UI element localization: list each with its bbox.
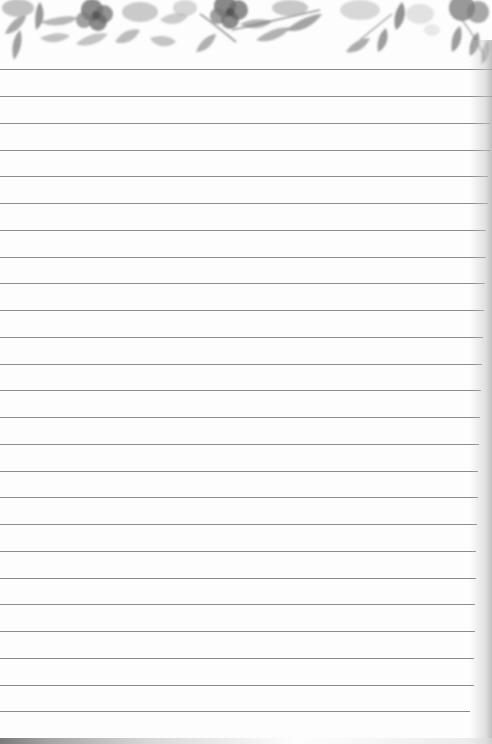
ruled-line [0,203,488,204]
notepad-sheet [0,0,492,744]
ruled-line [0,69,492,70]
ruled-line [0,631,475,632]
ruled-line [0,176,488,177]
ruled-line [0,551,476,552]
ruled-line [0,230,486,231]
ruled-line [0,337,483,338]
ruled-line [0,578,476,579]
ruled-line [0,685,474,686]
ruled-line [0,497,478,498]
ruled-line [0,257,486,258]
ruled-line [0,123,490,124]
ruled-line [0,150,490,151]
page-edge-shadow [470,40,492,744]
page-bottom-shadow [0,738,492,744]
ruled-line [0,283,485,284]
ruled-line [0,390,481,391]
ruled-line [0,524,477,525]
ruled-line [0,444,479,445]
ruled-line [0,417,480,418]
ruled-lines-container [0,0,492,744]
ruled-line [0,658,474,659]
ruled-line [0,711,470,712]
ruled-line [0,96,492,97]
ruled-line [0,310,484,311]
ruled-line [0,604,475,605]
ruled-line [0,471,478,472]
ruled-line [0,364,482,365]
